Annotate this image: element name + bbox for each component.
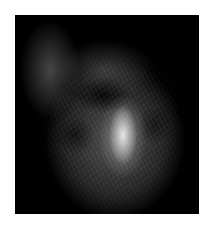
micrograph-frame	[15, 15, 199, 214]
cytoskeleton-filaments	[15, 15, 199, 214]
